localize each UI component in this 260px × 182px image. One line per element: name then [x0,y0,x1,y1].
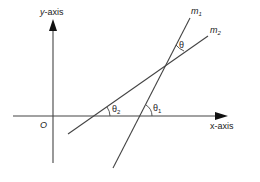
theta-label: θ [179,40,184,50]
angle-arc-theta2 [107,107,110,116]
theta1-label: θ1 [153,103,162,114]
theta2-label: θ2 [112,104,121,115]
m1-label: m1 [191,6,202,17]
y-axis-label: y-axis [39,7,64,17]
x-axis-label: x-axis [210,121,234,131]
m2-label: m2 [210,25,222,36]
x-axis [13,112,228,120]
x-axis-arrow-icon [215,112,228,120]
angle-arc-theta1 [146,105,152,116]
origin-label: O [40,120,47,130]
lines-angle-diagram: y-axis O x-axis m1 m2 θ θ2 θ1 [0,0,260,182]
y-axis [49,19,57,163]
y-axis-arrow-icon [49,19,57,31]
